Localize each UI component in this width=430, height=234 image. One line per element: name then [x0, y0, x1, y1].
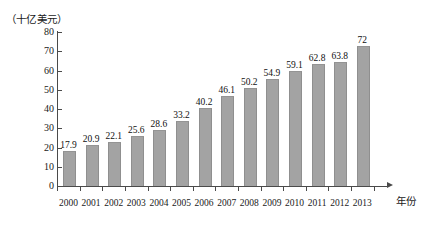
bar	[244, 88, 257, 186]
bar-value-label: 50.2	[241, 77, 258, 87]
x-tick-label: 2003	[127, 198, 146, 209]
bar	[63, 151, 76, 186]
bar	[176, 121, 189, 186]
chart-unit-caption: （十亿美元）	[6, 14, 67, 26]
x-tick-mark	[170, 187, 171, 191]
y-tick-label: 50	[14, 85, 54, 95]
x-tick-label: 2001	[82, 198, 101, 209]
x-tick-label: 2012	[330, 198, 349, 209]
x-tick-mark	[374, 187, 375, 191]
x-tick-label: 2005	[172, 198, 191, 209]
bar-value-label: 20.9	[83, 134, 100, 144]
x-tick-mark	[102, 187, 103, 191]
bar-value-label: 17.9	[60, 140, 77, 150]
x-tick-label: 2009	[262, 198, 281, 209]
y-tick-label: 70	[14, 46, 54, 56]
bar-value-label: 59.1	[286, 60, 303, 70]
x-tick-label: 2010	[285, 198, 304, 209]
bar-value-label: 72	[358, 35, 368, 45]
x-tick-mark	[238, 187, 239, 191]
x-tick-mark	[306, 187, 307, 191]
x-tick-mark	[283, 187, 284, 191]
bar-value-label: 46.1	[218, 85, 235, 95]
bar-value-label: 54.9	[264, 68, 281, 78]
y-tick-label: 40	[14, 104, 54, 114]
bar-value-label: 63.8	[331, 51, 348, 61]
x-tick-mark	[328, 187, 329, 191]
x-tick-label: 2008	[240, 198, 259, 209]
x-tick-mark	[148, 187, 149, 191]
bar	[289, 71, 302, 186]
y-tick-label: 10	[14, 162, 54, 172]
x-tick-label: 2002	[104, 198, 123, 209]
bar	[153, 130, 166, 186]
x-tick-label: 2013	[353, 198, 372, 209]
bar	[108, 142, 121, 186]
bar-value-label: 22.1	[105, 131, 122, 141]
bar	[131, 136, 144, 186]
y-tick-label: 60	[14, 66, 54, 76]
x-tick-label: 2000	[59, 198, 78, 209]
plot-area: 17.920.922.125.628.633.240.246.150.254.9…	[58, 32, 388, 186]
bar	[312, 64, 325, 186]
x-tick-label: 2007	[217, 198, 236, 209]
y-tick-label: 80	[14, 27, 54, 37]
bar	[199, 108, 212, 186]
x-tick-mark	[351, 187, 352, 191]
x-tick-mark	[80, 187, 81, 191]
x-tick-label: 2004	[149, 198, 168, 209]
bar-chart: （十亿美元） 01020304050607080 17.920.922.125.…	[0, 0, 430, 234]
x-tick-mark	[57, 187, 58, 191]
bar-value-label: 40.2	[196, 97, 213, 107]
bar-value-label: 62.8	[309, 53, 326, 63]
bar	[86, 145, 99, 186]
x-tick-mark	[193, 187, 194, 191]
x-axis-title: 年份	[396, 196, 416, 208]
x-tick-mark	[261, 187, 262, 191]
bar-value-label: 25.6	[128, 125, 145, 135]
x-tick-label: 2006	[195, 198, 214, 209]
bar	[334, 62, 347, 186]
bar	[221, 96, 234, 186]
y-tick-label: 20	[14, 143, 54, 153]
x-axis-line	[57, 186, 389, 187]
bar-value-label: 33.2	[173, 110, 190, 120]
y-tick-label: 30	[14, 123, 54, 133]
y-tick-mark	[58, 186, 62, 187]
x-tick-mark	[215, 187, 216, 191]
x-tick-label: 2011	[308, 198, 327, 209]
bar	[357, 46, 370, 186]
bar	[266, 79, 279, 186]
bar-value-label: 28.6	[151, 119, 168, 129]
x-tick-mark	[125, 187, 126, 191]
y-tick-label: 0	[14, 181, 54, 191]
